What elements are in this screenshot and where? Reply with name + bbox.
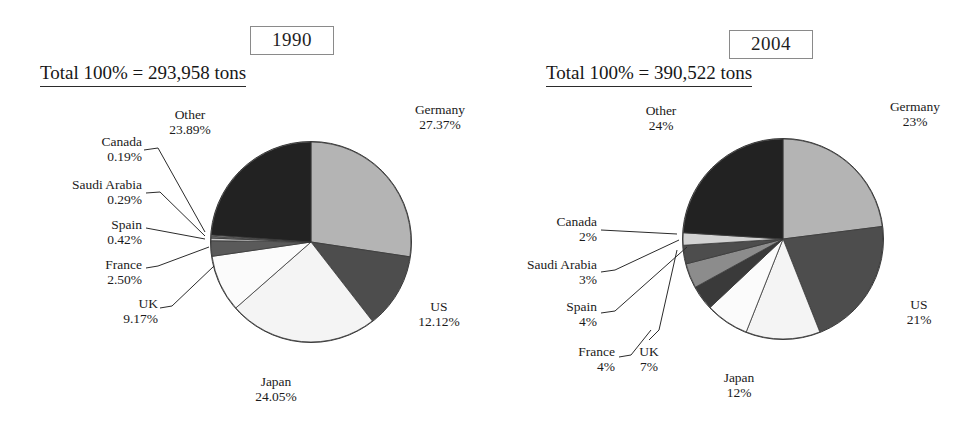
slice-label-germany: Germany 23% bbox=[873, 100, 957, 129]
total-label-2004: Total 100% = 390,522 tons bbox=[546, 62, 752, 87]
year-title-box-2004: 2004 bbox=[729, 30, 813, 59]
slice-label-canada-name: Canada bbox=[501, 215, 597, 230]
slice-label-spain-pct: 0.42% bbox=[58, 233, 142, 248]
slice-label-japan: Japan 24.05% bbox=[235, 375, 317, 404]
slice-label-germany: Germany 27.37% bbox=[398, 103, 482, 132]
slice-label-france: France 2.50% bbox=[50, 258, 142, 287]
slice-label-canada-pct: 0.19% bbox=[48, 150, 142, 165]
slice-label-saudi-arabia-pct: 3% bbox=[473, 273, 597, 288]
slice-label-uk: UK 7% bbox=[621, 345, 677, 374]
slice-label-spain: Spain 0.42% bbox=[58, 218, 142, 247]
slice-label-other-pct: 23.89% bbox=[150, 123, 230, 138]
slice-label-france-name: France bbox=[50, 258, 142, 273]
year-title-label: 2004 bbox=[751, 33, 791, 54]
slice-label-germany-pct: 27.37% bbox=[398, 118, 482, 133]
slice-label-saudi-arabia: Saudi Arabia 0.29% bbox=[30, 178, 142, 207]
slice-label-us-pct: 21% bbox=[891, 313, 947, 328]
pie-chart-1990 bbox=[205, 136, 417, 348]
slice-label-saudi-arabia: Saudi Arabia 3% bbox=[473, 258, 597, 287]
slice-label-germany-pct: 23% bbox=[873, 115, 957, 130]
slice-label-other-name: Other bbox=[150, 108, 230, 123]
slice-label-japan-pct: 24.05% bbox=[235, 390, 317, 405]
slice-label-uk-name: UK bbox=[74, 297, 158, 312]
slice-label-spain: Spain 4% bbox=[513, 300, 597, 329]
slice-label-canada: Canada 2% bbox=[501, 215, 597, 244]
total-label-1990: Total 100% = 293,958 tons bbox=[40, 62, 246, 87]
slice-label-us-name: US bbox=[891, 298, 947, 313]
slice-label-canada: Canada 0.19% bbox=[48, 135, 142, 164]
slice-label-saudi-arabia-name: Saudi Arabia bbox=[30, 178, 142, 193]
pie-svg-1990 bbox=[205, 136, 417, 348]
year-title-box-1990: 1990 bbox=[250, 26, 334, 55]
slice-label-other-pct: 24% bbox=[621, 119, 701, 134]
pie-svg-2004 bbox=[677, 133, 889, 345]
slice-label-germany-name: Germany bbox=[398, 103, 482, 118]
slice-label-other: Other 23.89% bbox=[150, 108, 230, 137]
slice-label-saudi-arabia-pct: 0.29% bbox=[30, 193, 142, 208]
slice-label-spain-pct: 4% bbox=[513, 315, 597, 330]
slice-label-other: Other 24% bbox=[621, 104, 701, 133]
slice-label-france-pct: 2.50% bbox=[50, 273, 142, 288]
slice-label-spain-name: Spain bbox=[58, 218, 142, 233]
pie-panel-2004: 2004 Total 100% = 390,522 tons Other 24%… bbox=[481, 0, 962, 431]
slice-label-uk: UK 9.17% bbox=[74, 297, 158, 326]
pie-chart-2004 bbox=[677, 133, 889, 345]
slice-label-japan-pct: 12% bbox=[703, 386, 775, 401]
slice-label-japan-name: Japan bbox=[703, 371, 775, 386]
pie-slice-germany bbox=[311, 142, 411, 257]
slice-label-uk-pct: 7% bbox=[621, 360, 677, 375]
slice-label-spain-name: Spain bbox=[513, 300, 597, 315]
slice-label-germany-name: Germany bbox=[873, 100, 957, 115]
slice-label-us-name: US bbox=[408, 300, 470, 315]
slice-label-france-name: France bbox=[523, 345, 615, 360]
slice-label-canada-pct: 2% bbox=[501, 230, 597, 245]
pie-slice-germany bbox=[783, 139, 882, 239]
slice-label-france-pct: 4% bbox=[523, 360, 615, 375]
pie-panel-1990: 1990 Total 100% = 293,958 tons Other 23.… bbox=[0, 0, 481, 431]
pie-slice-other bbox=[683, 139, 783, 239]
slice-label-canada-name: Canada bbox=[48, 135, 142, 150]
slice-label-japan-name: Japan bbox=[235, 375, 317, 390]
slice-label-france: France 4% bbox=[523, 345, 615, 374]
pie-slice-other bbox=[211, 142, 311, 242]
year-title-label: 1990 bbox=[272, 29, 312, 50]
slice-label-other-name: Other bbox=[621, 104, 701, 119]
slice-label-uk-name: UK bbox=[621, 345, 677, 360]
slice-label-us: US 21% bbox=[891, 298, 947, 327]
slice-label-us-pct: 12.12% bbox=[408, 315, 470, 330]
slice-label-us: US 12.12% bbox=[408, 300, 470, 329]
slice-label-japan: Japan 12% bbox=[703, 371, 775, 400]
slice-label-uk-pct: 9.17% bbox=[74, 312, 158, 327]
slice-label-saudi-arabia-name: Saudi Arabia bbox=[473, 258, 597, 273]
